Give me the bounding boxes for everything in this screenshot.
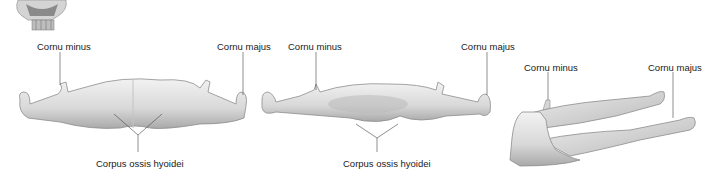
label-cornu-minus-posterior: Cornu minus	[288, 41, 342, 52]
hyoid-posterior-view	[262, 52, 491, 152]
hyoid-lateral-view	[510, 72, 695, 166]
larynx-thumbnail	[17, 0, 67, 30]
label-cornu-majus-anterior: Cornu majus	[217, 41, 271, 52]
label-cornu-minus-lateral: Cornu minus	[524, 62, 578, 73]
label-cornu-majus-posterior: Cornu majus	[461, 41, 515, 52]
label-corpus-anterior: Corpus ossis hyoidei	[96, 158, 184, 169]
hyoid-anterior-view	[20, 52, 247, 152]
hyoid-illustration	[0, 0, 718, 181]
label-cornu-minus-anterior: Cornu minus	[37, 41, 91, 52]
label-corpus-posterior: Corpus ossis hyoidei	[343, 158, 431, 169]
label-cornu-majus-lateral: Cornu majus	[648, 62, 702, 73]
